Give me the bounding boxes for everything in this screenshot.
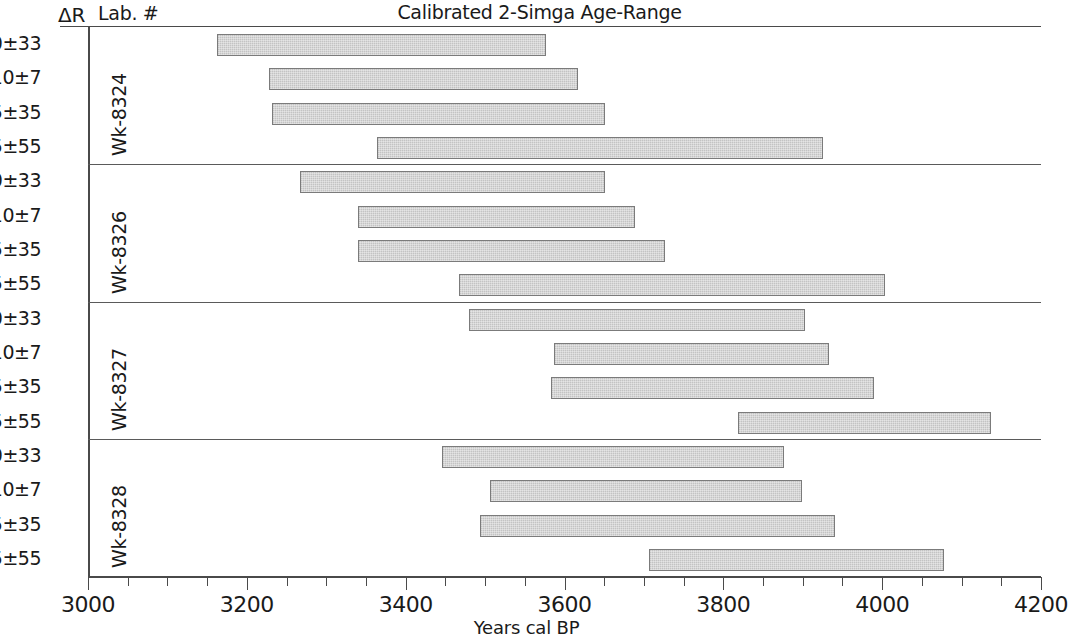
x-axis-tick-label: 3200	[220, 592, 274, 617]
age-range-bar	[738, 412, 991, 434]
group-divider	[88, 302, 1041, 303]
chart-title: Calibrated 2-Simga Age-Range	[172, 1, 907, 23]
x-axis-minor-tick	[842, 577, 843, 586]
delta-r-value: +50±33	[0, 444, 41, 466]
lab-number-label: Wk-8328	[108, 540, 130, 568]
x-axis-minor-tick	[207, 577, 208, 586]
x-axis-minor-tick	[485, 577, 486, 586]
x-axis-minor-tick	[604, 577, 605, 586]
x-axis-minor-tick	[962, 577, 963, 586]
delta-r-value: +10±7	[0, 204, 41, 226]
x-axis-major-tick	[1041, 577, 1042, 590]
top-rule	[60, 26, 1041, 27]
x-axis-major-tick	[406, 577, 407, 590]
x-axis-minor-tick	[445, 577, 446, 586]
delta-r-value: +50±33	[0, 169, 41, 191]
age-range-bar	[649, 549, 944, 571]
x-axis-major-tick	[88, 577, 89, 590]
x-axis-minor-tick	[326, 577, 327, 586]
x-axis-major-tick	[565, 577, 566, 590]
x-axis-tick-label: 4000	[855, 592, 909, 617]
x-axis-major-tick	[882, 577, 883, 590]
delta-r-value: -5±35	[0, 375, 41, 397]
delta-r-value: +50±33	[0, 32, 41, 54]
delta-r-column-header: ΔR	[58, 3, 85, 27]
x-axis-label: Years cal BP	[0, 617, 1053, 638]
age-range-bar	[300, 171, 605, 193]
lab-number-label: Wk-8327	[108, 403, 130, 431]
lab-number-column-header: Lab. #	[98, 2, 159, 24]
x-axis-minor-tick	[167, 577, 168, 586]
delta-r-value: +50±33	[0, 307, 41, 329]
x-axis-major-tick	[247, 577, 248, 590]
delta-r-value: +10±7	[0, 478, 41, 500]
age-range-bar	[272, 103, 605, 125]
delta-r-value: -155±55	[0, 547, 41, 569]
x-axis-tick-label: 3400	[379, 592, 433, 617]
delta-r-value: -155±55	[0, 272, 41, 294]
age-range-bar	[377, 137, 823, 159]
x-axis-minor-tick	[803, 577, 804, 586]
age-range-bar	[269, 68, 578, 90]
age-range-bar	[217, 34, 547, 56]
x-axis-tick-label: 4200	[1014, 592, 1068, 617]
x-axis-tick-label: 3600	[538, 592, 592, 617]
age-range-bar	[490, 480, 802, 502]
age-range-bar	[459, 274, 885, 296]
x-axis-minor-tick	[1001, 577, 1002, 586]
delta-r-value: -5±35	[0, 238, 41, 260]
x-axis-minor-tick	[366, 577, 367, 586]
delta-r-value: -155±55	[0, 135, 41, 157]
x-axis-tick-label: 3000	[61, 592, 115, 617]
x-axis-minor-tick	[525, 577, 526, 586]
x-axis-minor-tick	[684, 577, 685, 586]
age-range-bar	[358, 240, 665, 262]
group-divider	[88, 439, 1041, 440]
lab-number-label: Wk-8326	[108, 266, 130, 294]
delta-r-value: +10±7	[0, 341, 41, 363]
x-axis-minor-tick	[287, 577, 288, 586]
delta-r-value: -155±55	[0, 410, 41, 432]
x-axis-minor-tick	[128, 577, 129, 586]
delta-r-value: -5±35	[0, 513, 41, 535]
x-axis-minor-tick	[922, 577, 923, 586]
delta-r-value: -5±35	[0, 101, 41, 123]
x-axis-tick-label: 3800	[696, 592, 750, 617]
age-range-bar	[358, 206, 635, 228]
x-axis-major-tick	[723, 577, 724, 590]
age-range-bar	[480, 515, 836, 537]
group-divider	[88, 164, 1041, 165]
lab-number-label: Wk-8324	[108, 128, 130, 156]
x-axis-minor-tick	[644, 577, 645, 586]
age-range-bar	[442, 446, 784, 468]
age-range-bar	[469, 309, 805, 331]
delta-r-value: +10±7	[0, 66, 41, 88]
x-axis-minor-tick	[763, 577, 764, 586]
age-range-bar	[554, 343, 829, 365]
age-range-bar	[551, 377, 874, 399]
